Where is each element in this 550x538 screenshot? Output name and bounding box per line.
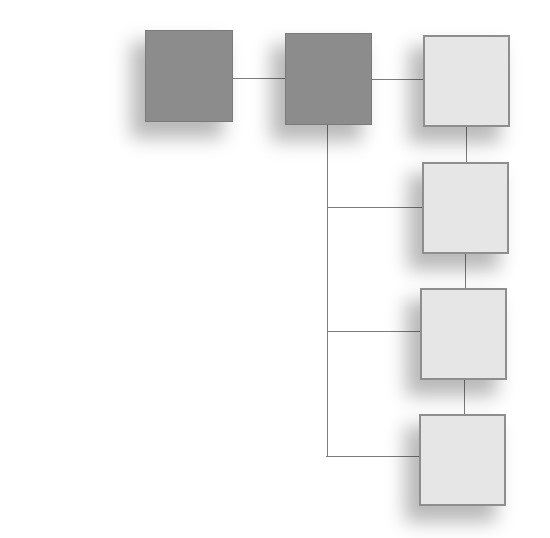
node-child-3 [420, 288, 507, 380]
branch-to-n5 [327, 331, 420, 332]
node-child-2 [422, 162, 509, 254]
node-child-1 [423, 35, 510, 127]
connector-n5-n6 [464, 380, 465, 414]
node-child-4 [419, 414, 506, 506]
connector-n4-n5 [465, 254, 466, 288]
connector-n2-n3 [372, 79, 423, 80]
connector-n1-n2 [233, 78, 285, 79]
branch-to-n6 [326, 456, 419, 457]
node-parent [285, 33, 372, 125]
connector-n3-n4 [466, 127, 467, 162]
trunk-vertical [327, 125, 328, 457]
branch-to-n4 [327, 207, 422, 208]
node-root [145, 30, 233, 122]
